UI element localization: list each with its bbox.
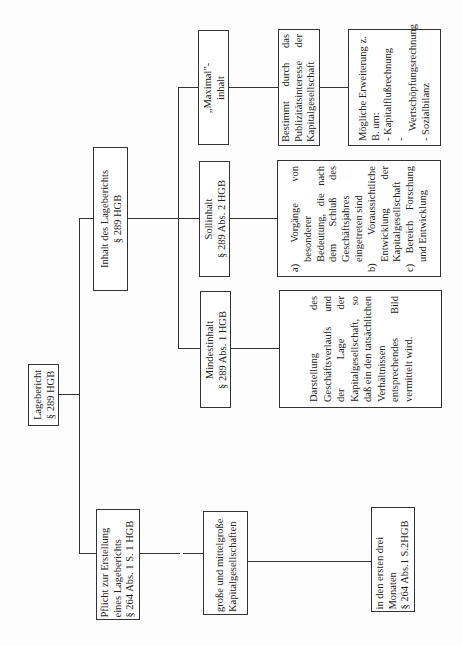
label: Mindestinhalt (203, 294, 216, 405)
node-sollinhalt-items: a) Vorgänge von besonderer Bedeutung, di… (277, 160, 441, 277)
extension-list: Mögliche Erweiterung z. B. um: - Kapital… (357, 35, 433, 141)
label: Monaten (387, 510, 400, 609)
node-mindestinhalt: Mindestinhalt § 289 Abs. 1 HGB (200, 291, 231, 408)
extension-title: Mögliche Erweiterung z. B. um: (357, 35, 382, 141)
label: Lagebericht (31, 366, 44, 424)
connector-soll-desc (230, 218, 277, 219)
connector-trunk (79, 218, 80, 554)
node-lagebericht-text: Lagebericht § 289 HGB (31, 366, 56, 424)
label: inhalt (214, 33, 227, 142)
list-item: - Sozialbilanz (420, 35, 433, 141)
label: eines Lageberichts (112, 512, 125, 617)
connector-gesellschaften-frist (248, 561, 371, 562)
paragraph-ref: § 289 Abs. 2 HGB (215, 164, 228, 274)
node-lagebericht: Lagebericht § 289 HGB (28, 364, 59, 426)
list-item: c) Bereich Forschung und Entwicklung (404, 166, 430, 272)
list-item: b) Voraussichtliche Entwicklung der Kapi… (365, 166, 403, 272)
connector-pflicht-gesellschaften-a (140, 553, 180, 554)
node-pflicht: Pflicht zur Erstellung eines Lagebericht… (96, 509, 140, 620)
label: Sollinhalt (202, 164, 215, 274)
connector-inhalt (79, 218, 93, 219)
list-item: - Wertschöpfungsrechnung (395, 35, 420, 141)
node-mindestinhalt-description: Darstellung des Geschäftsverlaufs und de… (279, 290, 442, 408)
connector-root (59, 394, 79, 395)
list-item: - Kapitalflußrechnung (382, 35, 395, 141)
node-inhalt: Inhalt des Lageberichts § 289 HGB (93, 147, 128, 291)
node-sollinhalt-text: Sollinhalt § 289 Abs. 2 HGB (202, 164, 227, 274)
description-text: Bestimmt durch das Publizitätsinteresse … (280, 34, 318, 142)
paragraph-ref: § 289 Abs. 1 HGB (216, 294, 229, 405)
node-gesellschaften: große und mittelgroße Kapitalgesellschaf… (203, 511, 248, 615)
label: in den ersten drei (374, 510, 387, 609)
list-item: a) Vorgänge von besonderer Bedeutung, di… (289, 166, 366, 272)
paragraph-ref: § 264 Abs. 1 S. 1 HGB (124, 512, 137, 617)
node-frist: in den ersten drei Monaten § 264 Abs.1 S… (371, 507, 415, 612)
label: Pflicht zur Erstellung (99, 512, 112, 617)
node-gesellschaften-text: große und mittelgroße Kapitalgesellschaf… (213, 514, 238, 612)
connector-maximal-desc (229, 87, 278, 88)
connector-pflicht-gesellschaften-b (183, 553, 203, 554)
label: Kapitalgesellschaften (226, 514, 239, 612)
connector-mindest (178, 348, 200, 349)
node-maximalinhalt-text: „Maximal"- inhalt (201, 33, 226, 142)
paragraph-ref: § 289 HGB (111, 150, 124, 288)
sollinhalt-list: a) Vorgänge von besonderer Bedeutung, di… (289, 166, 430, 272)
description-text: Darstellung des Geschäftsverlaufs und de… (307, 296, 415, 402)
node-mindestinhalt-text: Mindestinhalt § 289 Abs. 1 HGB (203, 294, 228, 405)
label: große und mittelgroße (213, 514, 226, 612)
label: Inhalt des Lageberichts (98, 150, 111, 288)
diagram-canvas: Lagebericht § 289 HGB Pflicht zur Erstel… (0, 0, 462, 645)
connector-pflicht (79, 553, 96, 554)
connector-inhalt-soll (128, 218, 199, 219)
node-pflicht-text: Pflicht zur Erstellung eines Lagebericht… (99, 512, 137, 617)
connector-inhalt-trunk (178, 87, 179, 349)
node-maximalinhalt: „Maximal"- inhalt (198, 30, 229, 145)
node-maximalinhalt-description: Bestimmt durch das Publizitätsinteresse … (278, 29, 320, 146)
node-inhalt-text: Inhalt des Lageberichts § 289 HGB (98, 150, 123, 288)
connector-maximal-extension (320, 87, 348, 88)
node-frist-text: in den ersten drei Monaten § 264 Abs.1 S… (374, 510, 412, 609)
paragraph-ref: § 264 Abs.1 S.2HGB (399, 510, 412, 609)
node-sollinhalt: Sollinhalt § 289 Abs. 2 HGB (199, 161, 230, 277)
connector-mindest-desc (231, 348, 279, 349)
label: „Maximal"- (201, 33, 214, 142)
paragraph-ref: § 289 HGB (44, 366, 57, 424)
node-extension: Mögliche Erweiterung z. B. um: - Kapital… (348, 29, 441, 146)
connector-maximal (178, 87, 198, 88)
